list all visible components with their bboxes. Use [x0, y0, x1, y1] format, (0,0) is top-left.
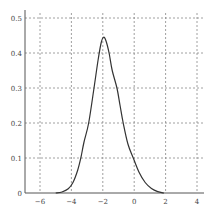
axes-layer: [25, 10, 204, 193]
y-tick-label: 0.3: [11, 85, 22, 93]
chart: −6−4−202400.10.20.30.40.5: [0, 0, 216, 212]
y-tick-label: 0.5: [11, 15, 22, 23]
grid-layer: [25, 13, 204, 193]
x-tick-label: 2: [163, 198, 167, 206]
x-tick-label: −2: [98, 198, 108, 206]
x-tick-label: −4: [66, 198, 77, 206]
x-tick-label: −6: [35, 198, 46, 206]
density-curve: [56, 37, 164, 193]
series-layer: [56, 37, 164, 193]
y-tick-label: 0.4: [11, 50, 23, 58]
x-tick-label: 4: [195, 198, 200, 206]
labels-layer: −6−4−202400.10.20.30.40.5: [11, 15, 200, 207]
x-tick-label: 0: [132, 198, 136, 206]
y-tick-label: 0: [18, 190, 22, 198]
y-tick-label: 0.1: [11, 155, 22, 163]
y-tick-label: 0.2: [11, 120, 22, 128]
